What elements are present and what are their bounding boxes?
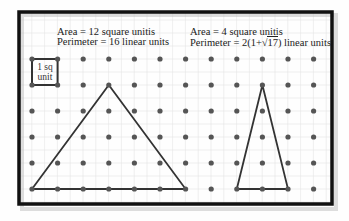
unit-label-line2: unit	[33, 72, 57, 82]
peg-dot	[285, 108, 290, 113]
peg-dot	[234, 186, 239, 191]
perimeter-prefix: Perimeter = 2(1+	[190, 37, 262, 48]
peg-dot	[183, 134, 188, 139]
peg-dot	[81, 82, 86, 87]
peg-dot	[183, 186, 188, 191]
right-perimeter-label: Perimeter = 2(1+√17) linear units	[190, 37, 331, 48]
peg-dot	[260, 186, 265, 191]
peg-dot	[106, 134, 111, 139]
peg-dot	[132, 134, 137, 139]
peg-dot	[55, 56, 60, 61]
peg-dot	[81, 186, 86, 191]
peg-dot	[285, 56, 290, 61]
peg-dot	[311, 56, 316, 61]
peg-dot	[183, 82, 188, 87]
peg-dot	[29, 56, 34, 61]
peg-dot	[55, 82, 60, 87]
peg-dot	[183, 108, 188, 113]
peg-dot	[285, 160, 290, 165]
peg-dot	[106, 108, 111, 113]
peg-dot	[29, 186, 34, 191]
peg-dot	[260, 56, 265, 61]
peg-dot	[81, 160, 86, 165]
peg-dot	[311, 134, 316, 139]
peg-dot	[311, 108, 316, 113]
peg-dot	[285, 186, 290, 191]
peg-dot	[157, 108, 162, 113]
peg-dot	[55, 186, 60, 191]
peg-dot	[157, 186, 162, 191]
left-perimeter-label: Perimeter = 16 linear units	[57, 36, 169, 47]
perimeter-suffix: ) linear units	[278, 37, 331, 48]
radicand: 17	[267, 36, 278, 48]
peg-dot	[157, 56, 162, 61]
peg-dot	[106, 82, 111, 87]
peg-dot	[157, 82, 162, 87]
peg-dot	[209, 56, 214, 61]
peg-dot	[234, 160, 239, 165]
peg-dot	[234, 134, 239, 139]
peg-dot	[132, 186, 137, 191]
peg-dot	[132, 56, 137, 61]
peg-dot	[234, 108, 239, 113]
peg-dot	[132, 108, 137, 113]
peg-dot	[209, 186, 214, 191]
peg-dot	[183, 160, 188, 165]
peg-dot	[311, 160, 316, 165]
peg-dot	[132, 160, 137, 165]
peg-dot	[311, 82, 316, 87]
peg-dot	[157, 160, 162, 165]
peg-dot	[183, 56, 188, 61]
peg-dot	[29, 82, 34, 87]
peg-dot	[260, 160, 265, 165]
peg-dot	[106, 56, 111, 61]
peg-dot	[285, 82, 290, 87]
peg-dot	[55, 108, 60, 113]
peg-dot	[81, 134, 86, 139]
peg-dot	[209, 82, 214, 87]
peg-dot	[29, 134, 34, 139]
peg-dot	[234, 82, 239, 87]
unit-square-label: 1 sq unit	[33, 62, 57, 82]
peg-dot	[29, 108, 34, 113]
peg-dot	[29, 160, 34, 165]
peg-dot	[132, 82, 137, 87]
peg-dot	[106, 160, 111, 165]
peg-dot	[209, 134, 214, 139]
peg-dot	[260, 82, 265, 87]
peg-dot	[106, 186, 111, 191]
peg-dot	[55, 134, 60, 139]
peg-dot	[157, 134, 162, 139]
peg-dot	[285, 134, 290, 139]
peg-dot	[234, 56, 239, 61]
peg-dot	[209, 108, 214, 113]
unit-label-line1: 1 sq	[33, 62, 57, 72]
peg-dot	[260, 134, 265, 139]
peg-dot	[55, 160, 60, 165]
peg-dot	[260, 108, 265, 113]
peg-dot	[209, 160, 214, 165]
peg-dot	[81, 56, 86, 61]
geoboard-diagram	[0, 0, 349, 221]
peg-dot	[311, 186, 316, 191]
peg-dot	[81, 108, 86, 113]
